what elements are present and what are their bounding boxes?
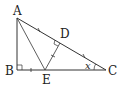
right-angle-b-icon (17, 65, 22, 70)
label-d: D (60, 27, 70, 41)
triangle-diagram: A B E C D x (0, 0, 127, 90)
label-e: E (42, 73, 51, 87)
label-b: B (5, 64, 14, 78)
angle-label-x: x (85, 60, 91, 71)
segment-ca (17, 18, 106, 70)
segment-ed (45, 43, 60, 70)
angle-arc-c-icon (94, 64, 96, 70)
label-c: C (108, 64, 117, 78)
label-a: A (12, 4, 22, 18)
